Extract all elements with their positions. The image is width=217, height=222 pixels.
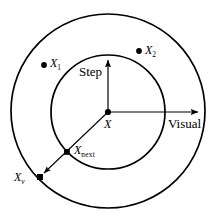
point-x1-subscript: 1 xyxy=(57,63,61,72)
point-x2-label: X2 xyxy=(145,44,156,59)
point-xnext-marker xyxy=(64,149,70,155)
visual-arrow-label: Visual xyxy=(168,117,201,130)
point-xnext-label: Xnext xyxy=(74,144,95,159)
concentric-range-diagram xyxy=(0,0,217,222)
point-xnext-subscript: next xyxy=(81,150,95,159)
point-xv-marker xyxy=(37,174,43,180)
center-point-label: X xyxy=(104,118,111,130)
center-point-marker xyxy=(105,109,111,115)
figure-canvas: X1 X2 Step X Visual Xnext Xv xyxy=(0,0,217,222)
step-arrow-label: Step xyxy=(79,65,102,78)
point-xv-label: Xv xyxy=(14,171,25,186)
point-x1-marker xyxy=(41,62,47,68)
point-x2-marker xyxy=(136,48,142,54)
point-x1-label: X1 xyxy=(50,57,61,72)
point-x2-subscript: 2 xyxy=(152,50,156,59)
point-xv-subscript: v xyxy=(21,177,24,186)
